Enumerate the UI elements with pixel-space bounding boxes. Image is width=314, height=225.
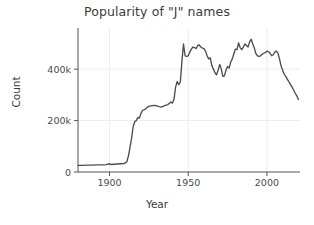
line-chart-plot: 0200k400k 190019502000	[0, 0, 314, 225]
y-tick-label: 0	[65, 167, 71, 178]
y-tick-label: 200k	[47, 115, 71, 126]
y-ticks-group: 0200k400k	[47, 64, 78, 178]
x-tick-label: 2000	[255, 177, 279, 188]
chart-figure: Popularity of "J" names 0200k400k 190019…	[0, 0, 314, 225]
y-axis-label: Count	[10, 62, 22, 122]
x-axis-label: Year	[0, 198, 314, 210]
gridlines-group	[78, 28, 300, 172]
y-tick-label: 400k	[47, 64, 71, 75]
x-ticks-group: 190019502000	[97, 172, 279, 188]
x-tick-label: 1900	[97, 177, 121, 188]
x-tick-label: 1950	[176, 177, 200, 188]
